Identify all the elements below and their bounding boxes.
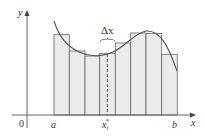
delta-x-brace bbox=[100, 38, 115, 42]
rectangle-2 bbox=[69, 51, 85, 115]
rectangles bbox=[54, 33, 177, 115]
riemann-sum-diagram: y x 0 a b xi* Δx bbox=[0, 0, 205, 138]
rectangle-3 bbox=[85, 56, 100, 115]
sample-point-label: xi* bbox=[101, 117, 109, 131]
a-label: a bbox=[51, 119, 56, 130]
rectangle-5 bbox=[115, 43, 130, 115]
rectangle-8 bbox=[162, 54, 178, 115]
b-label: b bbox=[172, 119, 177, 130]
rectangle-7 bbox=[146, 33, 162, 115]
rectangle-6 bbox=[131, 33, 146, 115]
x-axis-label: x bbox=[190, 117, 196, 128]
origin-label: 0 bbox=[19, 118, 24, 129]
delta-x-label: Δx bbox=[101, 24, 114, 36]
rectangle-1 bbox=[54, 35, 69, 115]
y-axis-label: y bbox=[17, 7, 23, 18]
y-axis-arrow-icon bbox=[25, 10, 30, 16]
